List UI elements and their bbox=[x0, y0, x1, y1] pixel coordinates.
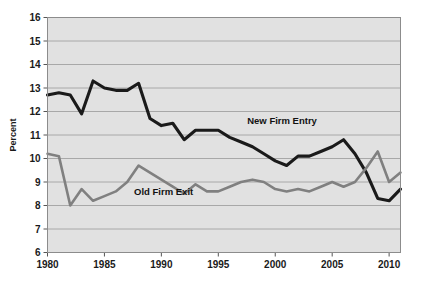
x-tick-label: 1990 bbox=[150, 259, 173, 270]
y-tick-label: 12 bbox=[29, 106, 41, 117]
x-tick-label: 1985 bbox=[93, 259, 116, 270]
x-tick-label: 1995 bbox=[207, 259, 230, 270]
y-tick-label: 14 bbox=[29, 59, 41, 70]
y-tick-label: 7 bbox=[35, 224, 41, 235]
y-tick-label: 8 bbox=[35, 200, 41, 211]
line-chart: 678910111213141516 198019851990199520002… bbox=[0, 0, 423, 283]
y-tick-label: 13 bbox=[29, 83, 41, 94]
y-tick-label: 15 bbox=[29, 36, 41, 47]
y-tick-label: 6 bbox=[35, 247, 41, 258]
y-axis-title: Percent bbox=[8, 118, 18, 151]
series-label: Old Firm Exit bbox=[134, 186, 194, 197]
chart-container: 678910111213141516 198019851990199520002… bbox=[0, 0, 423, 283]
x-tick-label: 2005 bbox=[321, 259, 344, 270]
x-tick-label: 2000 bbox=[264, 259, 287, 270]
series-label: New Firm Entry bbox=[247, 115, 317, 126]
y-tick-label: 9 bbox=[35, 177, 41, 188]
y-tick-label: 10 bbox=[29, 153, 41, 164]
y-tick-label: 16 bbox=[29, 12, 41, 23]
x-tick-label: 2010 bbox=[378, 259, 401, 270]
x-tick-label: 1980 bbox=[36, 259, 59, 270]
y-tick-label: 11 bbox=[30, 130, 41, 141]
